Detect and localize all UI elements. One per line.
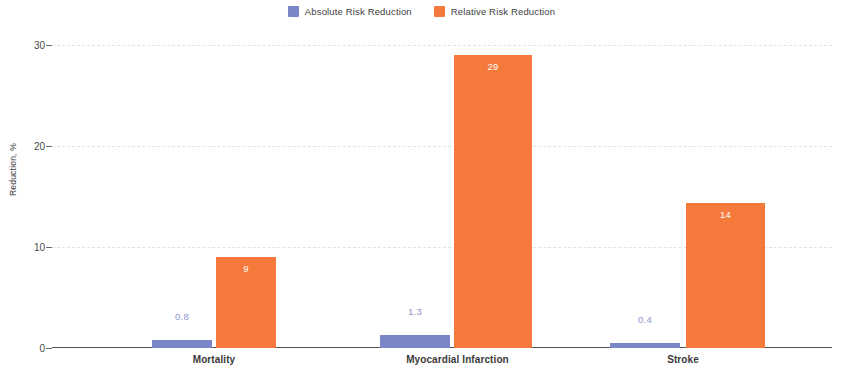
y-tick-mark [46, 146, 52, 147]
bar-absolute-risk-reduction[interactable]: 1.3 [380, 335, 450, 348]
y-tick-label: 20 [34, 141, 45, 152]
bar-group-myocardial-infarction: 1.3 29 Myocardial Infarction [380, 45, 542, 348]
bar-group-mortality: 0.8 9 Mortality [152, 45, 314, 348]
legend-item-absolute-risk-reduction[interactable]: Absolute Risk Reduction [288, 6, 412, 17]
bar-value-label: 9 [216, 263, 276, 274]
y-tick-label: 30 [34, 40, 45, 51]
square-swatch-icon [434, 6, 445, 17]
legend-label: Absolute Risk Reduction [305, 6, 412, 17]
bar-group-stroke: 0.4 14 Stroke [610, 45, 772, 348]
bar-value-label: 29 [454, 61, 532, 72]
y-tick-label: 0 [39, 343, 45, 354]
bar-relative-risk-reduction[interactable]: 9 [216, 257, 276, 348]
bar-value-label: 14 [686, 209, 765, 220]
bar-value-label: 0.8 [152, 311, 212, 322]
y-tick-mark [46, 348, 52, 349]
x-axis-category-label: Myocardial Infarction [349, 354, 566, 365]
bar-absolute-risk-reduction[interactable]: 0.8 [152, 340, 212, 348]
chart-legend: Absolute Risk Reduction Relative Risk Re… [0, 6, 843, 17]
x-axis-category-label: Stroke [590, 354, 776, 365]
bar-value-label: 0.4 [610, 314, 680, 325]
square-swatch-icon [288, 6, 299, 17]
plot-area: 30 20 10 0 0.8 9 Mortality [52, 45, 832, 348]
legend-label: Relative Risk Reduction [451, 6, 555, 17]
bar-relative-risk-reduction[interactable]: 14 [686, 203, 765, 348]
bar-absolute-risk-reduction[interactable]: 0.4 [610, 343, 680, 348]
y-axis-title: Reduction, % [8, 143, 18, 196]
legend-item-relative-risk-reduction[interactable]: Relative Risk Reduction [434, 6, 555, 17]
bar-value-label: 1.3 [380, 306, 450, 317]
y-tick-label: 10 [34, 242, 45, 253]
y-tick-mark [46, 45, 52, 46]
bar-relative-risk-reduction[interactable]: 29 [454, 55, 532, 348]
x-axis-category-label: Mortality [121, 354, 307, 365]
y-tick-mark [46, 247, 52, 248]
